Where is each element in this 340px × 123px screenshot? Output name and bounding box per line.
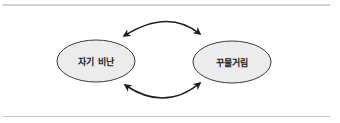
node-label-self-criticism: 자기 비난 <box>66 55 126 68</box>
cycle-diagram <box>0 0 340 123</box>
node-label-procrastination: 꾸물거림 <box>202 56 262 69</box>
top-bidirectional-arrow <box>124 21 200 36</box>
bottom-bidirectional-arrow <box>125 83 200 98</box>
